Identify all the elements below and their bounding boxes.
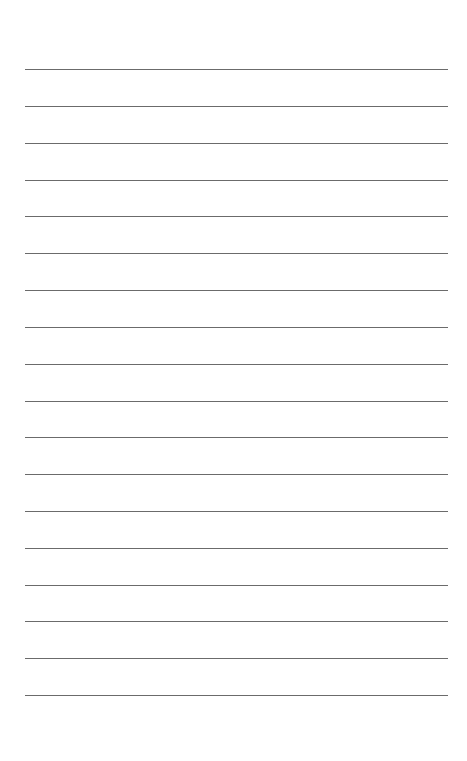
ruled-line xyxy=(25,364,448,365)
ruled-line xyxy=(25,253,448,254)
ruled-line xyxy=(25,143,448,144)
ruled-line xyxy=(25,548,448,549)
ruled-line xyxy=(25,290,448,291)
ruled-line xyxy=(25,327,448,328)
lined-page xyxy=(0,0,467,761)
ruled-line xyxy=(25,474,448,475)
ruled-line xyxy=(25,511,448,512)
ruled-line xyxy=(25,621,448,622)
ruled-line xyxy=(25,106,448,107)
ruled-line xyxy=(25,658,448,659)
ruled-line xyxy=(25,216,448,217)
ruled-line xyxy=(25,401,448,402)
ruled-line xyxy=(25,437,448,438)
ruled-line xyxy=(25,69,448,70)
ruled-line xyxy=(25,695,448,696)
ruled-line xyxy=(25,585,448,586)
ruled-line xyxy=(25,180,448,181)
